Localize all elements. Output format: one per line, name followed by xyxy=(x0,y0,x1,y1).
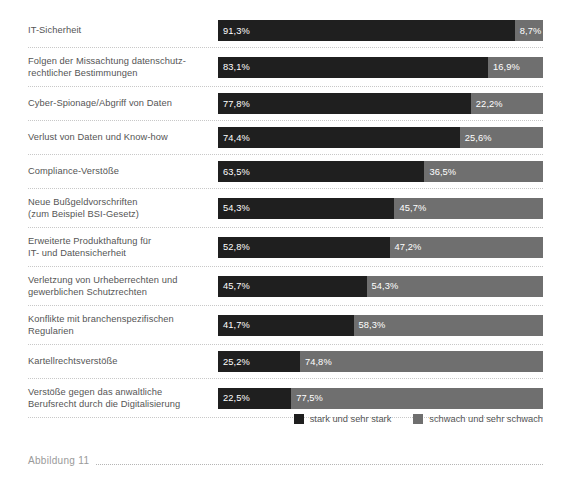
bar-segment-weak: 77,5% xyxy=(291,388,543,409)
chart-legend: stark und sehr starkschwach und sehr sch… xyxy=(28,414,543,424)
bar-segment-strong: 52,8% xyxy=(218,237,390,258)
chart-row: Erweiterte Produkthaftung für IT- und Da… xyxy=(28,228,543,267)
bar-segment-weak: 58,3% xyxy=(354,315,543,336)
chart-row: Compliance-Verstöße63,5%36,5% xyxy=(28,155,543,189)
chart-rows: IT-Sicherheit91,3%8,7%Folgen der Missach… xyxy=(28,14,543,418)
bar-track: 25,2%74,8% xyxy=(218,351,543,372)
chart-row: Verletzung von Urheberrechten und gewerb… xyxy=(28,267,543,306)
bar-track: 91,3%8,7% xyxy=(218,20,543,41)
figure-caption: Abbildung 11 xyxy=(28,455,543,466)
figure-stacked-bar-chart: IT-Sicherheit91,3%8,7%Folgen der Missach… xyxy=(0,0,562,487)
bar-segment-strong: 83,1% xyxy=(218,57,488,78)
bar-segment-weak: 8,7% xyxy=(515,20,543,41)
chart-row: Konflikte mit branchenspezifischen Regul… xyxy=(28,306,543,345)
legend-swatch-icon xyxy=(413,414,423,424)
bar-segment-weak: 36,5% xyxy=(424,161,543,182)
bar-track: 22,5%77,5% xyxy=(218,388,543,409)
row-category-label: Verstöße gegen das anwaltliche Berufsrec… xyxy=(28,386,218,411)
row-category-label: IT-Sicherheit xyxy=(28,24,218,37)
bar-segment-strong: 22,5% xyxy=(218,388,291,409)
bar-segment-weak: 74,8% xyxy=(300,351,543,372)
bar-track: 45,7%54,3% xyxy=(218,276,543,297)
bar-segment-weak: 22,2% xyxy=(471,93,543,114)
chart-row: Kartellrechtsverstöße25,2%74,8% xyxy=(28,345,543,379)
legend-label: stark und sehr stark xyxy=(310,414,392,424)
figure-caption-text: Abbildung 11 xyxy=(28,455,89,466)
chart-row: IT-Sicherheit91,3%8,7% xyxy=(28,14,543,48)
bar-track: 77,8%22,2% xyxy=(218,93,543,114)
legend-item: schwach und sehr schwach xyxy=(413,414,543,424)
bar-track: 74,4%25,6% xyxy=(218,127,543,148)
row-category-label: Verlust von Daten und Know-how xyxy=(28,131,218,144)
bar-track: 52,8%47,2% xyxy=(218,237,543,258)
row-category-label: Kartellrechtsverstöße xyxy=(28,355,218,368)
bar-segment-weak: 45,7% xyxy=(394,198,543,219)
chart-row: Folgen der Missachtung datenschutz- rech… xyxy=(28,48,543,87)
row-category-label: Cyber-Spionage/Abgriff von Daten xyxy=(28,97,218,110)
legend-swatch-icon xyxy=(294,414,304,424)
bar-segment-weak: 54,3% xyxy=(367,276,543,297)
bar-track: 41,7%58,3% xyxy=(218,315,543,336)
bar-segment-weak: 25,6% xyxy=(460,127,543,148)
legend-label: schwach und sehr schwach xyxy=(429,414,543,424)
bar-segment-strong: 41,7% xyxy=(218,315,354,336)
bar-segment-strong: 54,3% xyxy=(218,198,394,219)
bar-segment-strong: 63,5% xyxy=(218,161,424,182)
bar-segment-strong: 25,2% xyxy=(218,351,300,372)
row-category-label: Erweiterte Produkthaftung für IT- und Da… xyxy=(28,235,218,260)
bar-segment-weak: 47,2% xyxy=(390,237,543,258)
bar-track: 83,1%16,9% xyxy=(218,57,543,78)
chart-row: Neue Bußgeldvorschriften (zum Beispiel B… xyxy=(28,189,543,228)
row-category-label: Folgen der Missachtung datenschutz- rech… xyxy=(28,55,218,80)
row-category-label: Verletzung von Urheberrechten und gewerb… xyxy=(28,274,218,299)
bar-track: 54,3%45,7% xyxy=(218,198,543,219)
bar-track: 63,5%36,5% xyxy=(218,161,543,182)
bar-segment-weak: 16,9% xyxy=(488,57,543,78)
caption-dotted-rule xyxy=(96,463,543,465)
chart-row: Verstöße gegen das anwaltliche Berufsrec… xyxy=(28,379,543,418)
row-category-label: Compliance-Verstöße xyxy=(28,165,218,178)
bar-segment-strong: 91,3% xyxy=(218,20,515,41)
bar-segment-strong: 45,7% xyxy=(218,276,367,297)
row-category-label: Konflikte mit branchenspezifischen Regul… xyxy=(28,313,218,338)
row-category-label: Neue Bußgeldvorschriften (zum Beispiel B… xyxy=(28,196,218,221)
chart-row: Cyber-Spionage/Abgriff von Daten77,8%22,… xyxy=(28,87,543,121)
chart-row: Verlust von Daten und Know-how74,4%25,6% xyxy=(28,121,543,155)
bar-segment-strong: 74,4% xyxy=(218,127,460,148)
bar-segment-strong: 77,8% xyxy=(218,93,471,114)
legend-item: stark und sehr stark xyxy=(294,414,392,424)
